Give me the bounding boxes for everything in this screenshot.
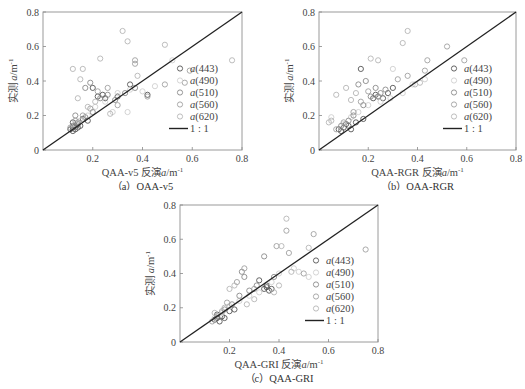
data-point (311, 232, 316, 237)
legend-marker-icon (313, 282, 318, 287)
panel-c: 0.20.40.60.800.20.40.60.8a(443)a(490)a(5… (0, 0, 525, 389)
data-point (306, 245, 311, 250)
series-a443 (212, 278, 274, 324)
data-point (286, 250, 291, 255)
x-axis-label: QAA-GRI 反演a/m-1 (234, 358, 324, 370)
data-point (279, 244, 284, 249)
x-tick-label: 0.8 (372, 345, 385, 356)
legend-marker-icon (313, 270, 318, 275)
data-point (257, 278, 262, 283)
y-tick-label: 0.6 (164, 234, 177, 245)
y-tick-label: 0 (171, 337, 176, 348)
y-tick-label: 0.4 (164, 268, 177, 279)
y-tick-label: 0.8 (164, 200, 177, 211)
data-point (257, 290, 262, 295)
panel-caption: （c）QAA-GRI (245, 373, 314, 384)
y-tick-label: 0.2 (164, 302, 177, 313)
x-tick-label: 0.6 (322, 345, 335, 356)
legend-marker-icon (313, 294, 318, 299)
legend-label: a(443) (326, 255, 354, 267)
data-point (301, 271, 306, 276)
data-point (242, 274, 247, 279)
scatter-plot-c: 0.20.40.60.800.20.40.60.8a(443)a(490)a(5… (0, 0, 525, 389)
legend-label: 1 : 1 (326, 315, 345, 326)
data-point (232, 307, 237, 312)
data-point (363, 247, 368, 252)
legend-marker-icon (313, 258, 318, 263)
data-point (274, 244, 279, 249)
data-point (244, 302, 249, 307)
legend-label: a(620) (326, 303, 354, 315)
x-tick-label: 0.2 (223, 345, 236, 356)
series-a620 (212, 216, 311, 315)
data-point (276, 283, 281, 288)
data-point (284, 216, 289, 221)
data-point (262, 254, 267, 259)
legend-label: a(560) (326, 291, 354, 303)
data-point (306, 274, 311, 279)
data-point (296, 269, 301, 274)
legend-label: a(490) (326, 267, 354, 279)
data-point (227, 286, 232, 291)
data-point (237, 293, 242, 298)
data-point (252, 297, 257, 302)
data-point (284, 228, 289, 233)
x-tick-label: 0.4 (273, 345, 286, 356)
legend-marker-icon (313, 306, 318, 311)
y-axis-label: 实测 a/m-1 (144, 251, 156, 296)
legend: a(443)a(490)a(510)a(560)a(620)1 : 1 (305, 255, 354, 326)
legend-label: a(510) (326, 279, 354, 291)
